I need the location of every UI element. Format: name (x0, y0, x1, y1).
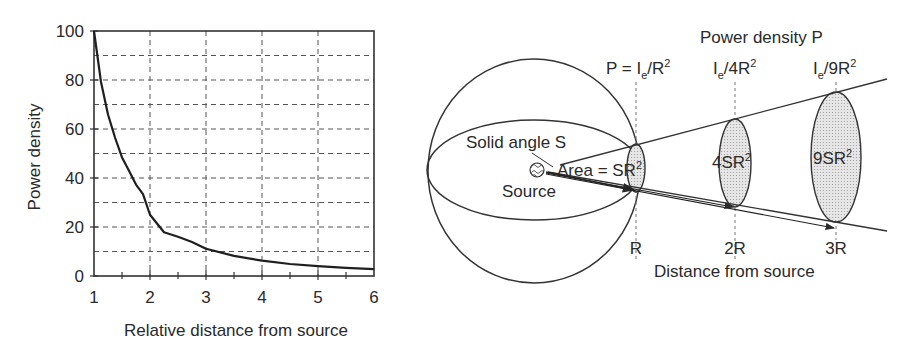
y-tick-label: 0 (75, 267, 84, 286)
inverse-square-curve (94, 31, 374, 269)
solid-angle-label: Solid angle S (466, 133, 566, 152)
x-tick-label: 3 (201, 288, 210, 307)
x-tick-label: 4 (257, 288, 266, 307)
chart-grid (94, 31, 374, 276)
distance-tick-3R: 3R (825, 239, 847, 258)
y-tick-label: 80 (65, 71, 84, 90)
power-density-chart: 100 80 60 40 20 0 1 2 3 4 5 6 Relative d… (25, 22, 379, 340)
y-tick-label: 100 (56, 22, 84, 41)
distance-axis-title: Distance from source (654, 262, 815, 281)
source-icon (530, 163, 544, 177)
x-tick-label: 6 (369, 288, 378, 307)
x-axis-title: Relative distance from source (124, 321, 348, 340)
density-label-R: P = Ie/R2 (606, 57, 670, 81)
y-tick-label: 60 (65, 120, 84, 139)
density-label-3R: Ie/9R2 (813, 57, 856, 81)
y-tick-label: 20 (65, 218, 84, 237)
distance-tick-2R: 2R (724, 239, 746, 258)
x-tick-label: 2 (145, 288, 154, 307)
y-tick-label: 40 (65, 169, 84, 188)
x-tick-label: 1 (89, 288, 98, 307)
source-label: Source (502, 182, 556, 201)
y-axis-title: Power density (25, 103, 44, 210)
density-label-2R: Ie/4R2 (713, 57, 756, 81)
arrow-to-3R (546, 174, 834, 228)
power-density-title: Power density P (700, 28, 823, 47)
distance-tick-R: R (630, 239, 642, 258)
solid-angle-diagram: Power density P P = Ie/R2 Ie/4R2 Ie/9R2 … (427, 28, 887, 283)
axis-ticks (90, 31, 346, 280)
x-tick-label: 5 (313, 288, 322, 307)
area-label: Area = SR2 (557, 159, 642, 180)
